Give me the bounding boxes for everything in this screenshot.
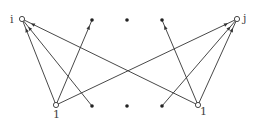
node-label-i: i xyxy=(10,13,14,26)
node-label-br: 1 xyxy=(200,105,207,118)
node-label-j: j xyxy=(241,12,246,25)
node-t2 xyxy=(125,18,129,22)
node-b1 xyxy=(90,104,94,108)
edge-bl-t1 xyxy=(56,20,92,105)
edge-br-t3 xyxy=(162,20,198,105)
node-i xyxy=(19,16,24,21)
node-label-bl: 1 xyxy=(53,108,60,121)
node-j xyxy=(234,16,239,21)
edge-br-i xyxy=(22,19,198,105)
node-t1 xyxy=(90,18,94,22)
edge-bl-i xyxy=(22,19,56,105)
node-t3 xyxy=(160,18,164,22)
node-b3 xyxy=(160,104,164,108)
edge-b3-j xyxy=(162,19,237,106)
edge-br-j xyxy=(198,19,237,105)
bipartite-digraph: ij11 xyxy=(0,0,268,127)
edge-bl-j xyxy=(56,19,237,105)
node-b2 xyxy=(125,104,129,108)
node-bl xyxy=(53,102,58,107)
